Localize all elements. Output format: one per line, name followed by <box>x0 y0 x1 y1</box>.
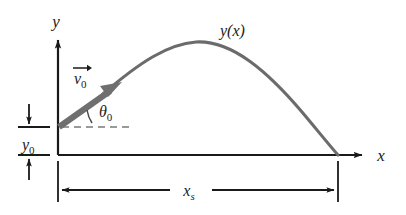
projectile-motion-figure: y x y(x) v0 θ0 y0 xs <box>0 0 406 215</box>
range-label: xs <box>182 182 194 202</box>
launch-angle-label-subscript: 0 <box>107 111 113 123</box>
range-label-subscript: s <box>190 190 194 202</box>
trajectory-curve <box>103 42 338 155</box>
velocity-label-vector-arrowhead <box>87 65 92 71</box>
trajectory-label-var: x <box>231 22 239 39</box>
trajectory-label-paren-close: ) <box>239 22 245 40</box>
x-axis-label: x <box>376 146 385 165</box>
launch-angle-arc <box>87 110 92 123</box>
initial-height-label: y0 <box>20 136 35 156</box>
xs-dimension <box>58 161 338 202</box>
velocity-vector-label: v0 <box>73 65 92 90</box>
velocity-label-text: v0 <box>74 70 87 90</box>
range-label-base: x <box>182 182 190 199</box>
velocity-label-subscript: 0 <box>81 78 87 90</box>
launch-angle-label: θ0 <box>99 103 113 123</box>
y-axis-label: y <box>50 12 60 31</box>
diagram-canvas: y x y(x) v0 θ0 y0 xs <box>0 0 406 215</box>
trajectory-label: y(x) <box>218 22 245 40</box>
initial-height-label-subscript: 0 <box>29 144 35 156</box>
launch-angle-label-base: θ <box>99 103 107 120</box>
